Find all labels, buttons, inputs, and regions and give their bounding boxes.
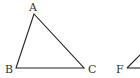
vertex-label-f: F	[116, 63, 124, 76]
vertex-label-b: B	[5, 63, 13, 76]
vertex-label-c: C	[88, 63, 96, 76]
geometry-figure: A B C F	[0, 0, 140, 78]
triangle-def-partial	[127, 54, 140, 68]
vertex-label-a: A	[28, 1, 38, 14]
triangle-abc	[16, 14, 84, 68]
